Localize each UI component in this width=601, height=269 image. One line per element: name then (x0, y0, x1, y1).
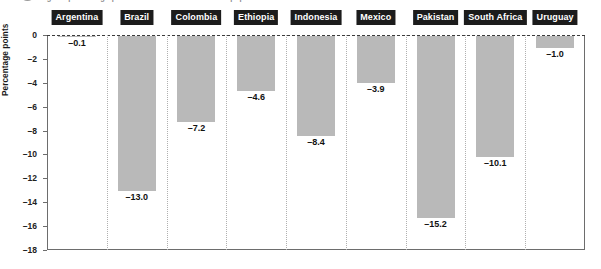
bar-value-label: –3.9 (345, 84, 407, 94)
y-axis-tick: –6 (43, 107, 47, 108)
y-axis-tick-label: –16 (23, 221, 37, 231)
y-axis-tick: –12 (43, 178, 47, 179)
bullet-dot-icon (22, 0, 33, 1)
y-axis-tick: –8 (43, 131, 47, 132)
y-axis-tick: 0 (43, 35, 47, 36)
category-label-uruguay: Uruguay (533, 10, 578, 25)
y-axis-tick-label: –14 (23, 197, 37, 207)
bar[interactable] (297, 36, 335, 136)
y-axis-line (47, 35, 48, 250)
bar[interactable] (536, 36, 574, 48)
category-label-brazil: Brazil (120, 10, 153, 25)
category-label-ethiopia: Ethiopia (234, 10, 278, 25)
bar-value-label: –13.0 (106, 192, 168, 202)
figure-caption-text: Figure: percentage-point decline in the … (40, 0, 276, 2)
y-axis-tick: –14 (43, 202, 47, 203)
bar-value-label: –15.2 (405, 219, 467, 229)
x-axis-line (47, 249, 585, 250)
category-label-south-africa: South Africa (464, 10, 526, 25)
category-separator (107, 35, 108, 250)
bar[interactable] (118, 36, 156, 191)
bar-value-label: –1.0 (524, 49, 586, 59)
category-label-indonesia: Indonesia (291, 10, 342, 25)
y-axis-tick-label: –4 (28, 78, 37, 88)
figure-caption-strip: Figure: percentage-point decline in the … (0, 0, 601, 3)
category-label-band: ArgentinaBrazilColombiaEthiopiaIndonesia… (0, 10, 601, 28)
category-separator (226, 35, 227, 250)
plot-right-border (584, 35, 585, 250)
y-axis-tick-label: –8 (28, 126, 37, 136)
bar-value-label: –7.2 (165, 123, 227, 133)
category-label-colombia: Colombia (172, 10, 222, 25)
category-separator (525, 35, 526, 250)
y-axis-tick-label: –10 (23, 149, 37, 159)
bar-value-label: –10.1 (464, 158, 526, 168)
y-axis-tick: –16 (43, 226, 47, 227)
y-axis-tick-label: –18 (23, 245, 37, 255)
bar-value-label: –4.6 (225, 92, 287, 102)
y-axis-tick-label: –12 (23, 173, 37, 183)
bar[interactable] (177, 36, 215, 122)
category-label-pakistan: Pakistan (413, 10, 459, 25)
bar[interactable] (58, 36, 96, 37)
y-axis-title: Percentage points (1, 82, 10, 96)
bar[interactable] (417, 36, 455, 218)
chart-plot-area: 0–2–4–6–8–10–12–14–16–18–0.1–13.0–7.2–4.… (47, 35, 585, 250)
category-label-argentina: Argentina (51, 10, 102, 25)
bar[interactable] (476, 36, 514, 157)
y-axis-tick: –10 (43, 154, 47, 155)
y-axis-tick-label: 0 (32, 30, 37, 40)
bar[interactable] (357, 36, 395, 83)
y-axis-tick: –18 (43, 250, 47, 251)
y-axis-tick: –4 (43, 83, 47, 84)
category-separator (167, 35, 168, 250)
bar[interactable] (237, 36, 275, 91)
y-axis-tick: –2 (43, 59, 47, 60)
y-axis-tick-label: –6 (28, 102, 37, 112)
category-label-mexico: Mexico (356, 10, 395, 25)
bar-value-label: –8.4 (285, 137, 347, 147)
bar-value-label: –0.1 (46, 38, 108, 48)
y-axis-tick-label: –2 (28, 54, 37, 64)
